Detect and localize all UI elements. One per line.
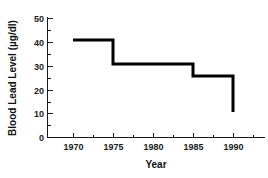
y-tick-label-50: 50	[34, 14, 44, 24]
x-tick-label-1990: 1990	[223, 142, 243, 152]
x-tick-label-1980: 1980	[143, 142, 163, 152]
x-tick-label-1985: 1985	[183, 142, 203, 152]
x-tick-label-1970: 1970	[63, 142, 83, 152]
y-axis-title: Blood Lead Level (µg/dl)	[7, 20, 18, 136]
y-tick-label-10: 10	[34, 109, 44, 119]
y-tick-label-30: 30	[34, 62, 44, 72]
y-tick-label-20: 20	[34, 86, 44, 96]
y-tick-label-0: 0	[39, 133, 44, 143]
y-tick-label-40: 40	[34, 38, 44, 48]
x-tick-label-1975: 1975	[103, 142, 123, 152]
step-chart-plot: 50 40 30 20 10 0 Blood Lead Level (µg/dl…	[0, 0, 268, 178]
chart-figure: 50 40 30 20 10 0 Blood Lead Level (µg/dl…	[0, 0, 268, 178]
x-axis-title: Year	[145, 159, 166, 170]
